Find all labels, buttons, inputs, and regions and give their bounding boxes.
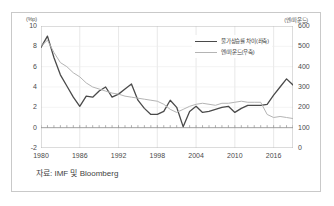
chart-legend: 물가상승률 차이(좌축)엔/파운드(우축) — [192, 35, 272, 58]
legend-line-swatch — [195, 41, 217, 42]
x-tick: 2004 — [181, 152, 211, 159]
x-tick: 1986 — [65, 152, 95, 159]
x-tick: 2016 — [259, 152, 289, 159]
x-tick: 1992 — [104, 152, 134, 159]
y-right-tick: 500 — [298, 42, 318, 49]
legend-item: 물가상승률 차이(좌축) — [195, 37, 269, 45]
y-right-tick: 0 — [298, 144, 318, 151]
y-left-tick: -2 — [21, 144, 37, 151]
y-left-tick: 4 — [21, 83, 37, 90]
y-left-tick: 6 — [21, 63, 37, 70]
legend-item: 엔/파운드(우축) — [195, 48, 269, 56]
x-tick: 2010 — [220, 152, 250, 159]
y-right-tick: 200 — [298, 103, 318, 110]
y-right-tick: 300 — [298, 83, 318, 90]
y-right-tick: 400 — [298, 63, 318, 70]
y-left-tick: 0 — [21, 124, 37, 131]
zero-axis-line — [41, 125, 293, 128]
y-left-tick: 8 — [21, 42, 37, 49]
y-left-tick: 2 — [21, 103, 37, 110]
x-tick: 1980 — [26, 152, 56, 159]
legend-line-swatch — [195, 52, 217, 53]
chart-figure: (%p) (엔/파운드) 1086420-2 60050040030020010… — [0, 0, 334, 206]
y-left-tick: 10 — [21, 22, 37, 29]
y-right-tick: 600 — [298, 22, 318, 29]
x-tick: 1998 — [142, 152, 172, 159]
legend-label: 물가상승률 차이(좌축) — [221, 37, 269, 45]
legend-label: 엔/파운드(우축) — [221, 48, 254, 56]
y-right-tick: 100 — [298, 124, 318, 131]
source-note: 자료: IMF 및 Bloomberg — [36, 167, 118, 178]
